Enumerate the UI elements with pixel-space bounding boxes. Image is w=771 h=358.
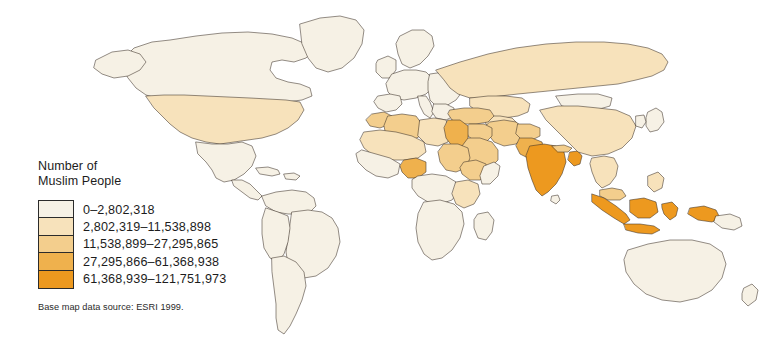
country-indonesia-borneo [630,198,658,218]
country-indonesia-sulawesi [662,202,678,220]
choropleth-map-figure: Number of Muslim People 0–2,802,318 2,80… [0,0,771,358]
country-philippines [648,172,664,192]
country-hispaniola [284,173,300,180]
legend-label-4: 27,295,866–61,368,938 [83,255,219,269]
legend-label-3: 11,538,899–27,295,865 [83,237,218,251]
country-papua-new-guinea [714,214,742,230]
country-russia [436,42,668,98]
legend-swatch-4 [39,253,73,270]
country-scandinavia [396,30,434,68]
legend-class-2: 2,802,319–11,538,898 [39,218,73,235]
country-greenland [300,16,364,72]
country-nigeria [400,158,426,178]
legend-swatch-5 [39,271,73,288]
country-mainland-southeast-asia [590,156,618,188]
country-bangladesh [568,151,582,166]
legend-class-5: 61,368,939–121,751,973 [39,271,73,288]
legend-swatch-2 [39,218,73,235]
country-argentina-chile [272,256,306,334]
legend-title: Number of Muslim People [38,159,268,189]
country-central-africa [412,174,458,204]
legend-class-1: 0–2,802,318 [39,201,73,218]
country-iberia [374,94,402,112]
legend-label-5: 61,368,939–121,751,973 [83,272,226,286]
legend-swatch-1 [39,201,73,218]
country-indonesia-java [624,224,660,234]
map-legend: Number of Muslim People 0–2,802,318 2,80… [38,159,268,313]
map-source-note: Base map data source: ESRI 1999. [38,301,268,313]
legend-class-4: 27,295,866–61,368,938 [39,253,73,270]
country-new-zealand [742,284,758,306]
country-korea [636,115,646,128]
country-afghanistan [516,124,540,140]
country-canada [120,32,312,102]
country-madagascar [474,212,494,240]
country-east-africa [452,180,480,208]
legend-class-list: 0–2,802,318 2,802,319–11,538,898 11,538,… [38,200,74,289]
country-sri-lanka [551,195,560,204]
legend-label-1: 0–2,802,318 [83,203,155,217]
country-southern-africa [416,200,464,260]
country-australia [624,240,726,302]
legend-swatch-3 [39,236,73,253]
country-united-states [146,95,304,144]
legend-class-3: 11,538,899–27,295,865 [39,236,73,253]
legend-label-2: 2,802,319–11,538,898 [83,220,211,234]
country-japan [646,108,664,132]
